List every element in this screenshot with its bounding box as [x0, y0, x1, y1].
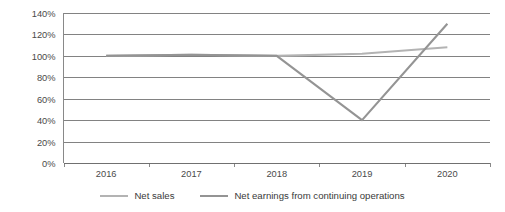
line-chart-svg: 0%20%40%60%80%100%120%140% 2016201720182…	[0, 0, 505, 178]
plot-area: 0%20%40%60%80%100%120%140% 2016201720182…	[0, 0, 505, 178]
x-axis-tick-label: 2020	[437, 169, 458, 178]
chart-legend: Net sales Net earnings from continuing o…	[0, 186, 505, 206]
x-axis-tick-label: 2017	[181, 169, 202, 178]
legend-label-net-earnings: Net earnings from continuing operations	[234, 191, 404, 201]
y-axis-tick-label: 80%	[37, 73, 56, 83]
legend-label-net-sales: Net sales	[134, 191, 174, 201]
y-axis-tick-label: 100%	[32, 52, 56, 62]
y-axis-tick-label: 120%	[32, 30, 56, 40]
legend-swatch-net-earnings	[200, 195, 228, 198]
gridlines-group	[64, 14, 491, 164]
x-axis-tick-label: 2018	[266, 169, 287, 178]
legend-item-net-earnings: Net earnings from continuing operations	[200, 191, 404, 201]
series-lines-group	[106, 24, 447, 120]
series-line-net-earnings	[106, 24, 447, 120]
y-axis-tick-label: 0%	[42, 159, 55, 169]
y-axis-tick-label: 40%	[37, 116, 56, 126]
x-axis-tick-label: 2016	[96, 169, 117, 178]
y-axis-tick-label: 20%	[37, 138, 56, 148]
y-axis-tick-label: 60%	[37, 95, 56, 105]
chart-container: 0%20%40%60%80%100%120%140% 2016201720182…	[0, 0, 505, 212]
y-axis-tick-labels: 0%20%40%60%80%100%120%140%	[32, 9, 56, 169]
legend-swatch-net-sales	[100, 195, 128, 198]
x-axis-tick-labels: 20162017201820192020	[96, 169, 458, 178]
y-axis-tick-label: 140%	[32, 9, 56, 19]
x-axis-tick-label: 2019	[352, 169, 373, 178]
legend-item-net-sales: Net sales	[100, 191, 174, 201]
